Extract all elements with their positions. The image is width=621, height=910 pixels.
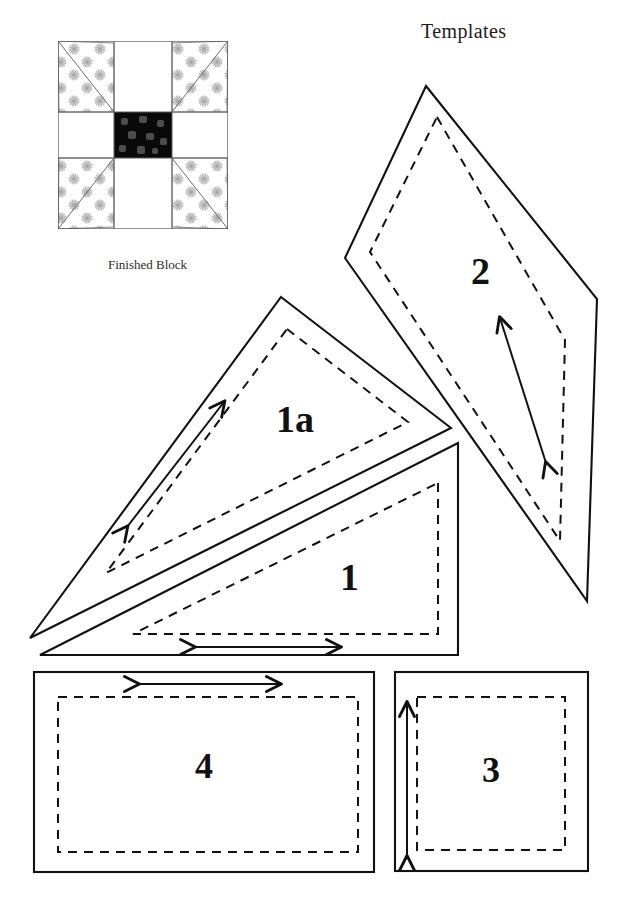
- page-title: Templates: [421, 20, 507, 43]
- template-sheet-page: Templates Finished Block 1a 1 2 3 4: [0, 0, 621, 910]
- template-2-label: 2: [471, 252, 490, 290]
- template-1-label: 1: [340, 558, 359, 596]
- template-4-label: 4: [195, 748, 213, 784]
- block-center-square: [114, 112, 172, 158]
- finished-block-illustration: [58, 41, 228, 229]
- template-1a-label: 1a: [276, 400, 314, 438]
- finished-block-caption: Finished Block: [108, 257, 187, 273]
- template-sheet-drawing: [0, 0, 621, 910]
- template-3-label: 3: [482, 752, 500, 788]
